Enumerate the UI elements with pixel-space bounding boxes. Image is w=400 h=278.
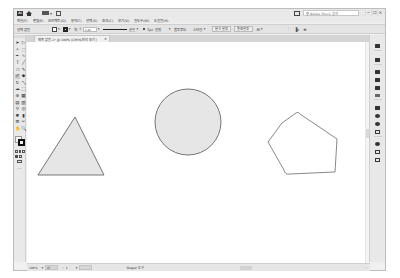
- panel-dock: [369, 35, 385, 262]
- previous-artboard-icon[interactable]: ‹: [62, 266, 63, 270]
- gradient-mode-icon[interactable]: [19, 150, 22, 153]
- perspective-grid-tool-icon[interactable]: ▦: [21, 94, 26, 99]
- screen-mode-icon[interactable]: [17, 160, 22, 163]
- dock-divider: [374, 136, 382, 137]
- artwork: [27, 42, 370, 263]
- artboard-nav-field[interactable]: [79, 265, 92, 270]
- line-tool-icon[interactable]: ╱: [21, 61, 26, 66]
- chevron-down-icon[interactable]: ▾: [169, 27, 171, 31]
- gradient-tool-icon[interactable]: ▥: [21, 100, 26, 105]
- slice-tool-icon[interactable]: ✂: [21, 120, 26, 125]
- brush-definition[interactable]: 5pt. 원형: [147, 27, 161, 32]
- circle-shape[interactable]: [155, 89, 221, 155]
- artboard-tool-icon[interactable]: ⊞: [15, 120, 20, 125]
- warp-tool-icon[interactable]: ☁: [15, 87, 20, 92]
- menu-help[interactable]: 도움말(H): [154, 18, 168, 23]
- document-tab[interactable]: 제목 없음-1* @ 100% (CMYK/미리 보기) ✕: [34, 35, 110, 42]
- menu-object[interactable]: 오브젝트(O): [48, 18, 65, 23]
- artboard-canvas[interactable]: [27, 42, 370, 263]
- current-tool-status[interactable]: Shaper 도구: [126, 266, 144, 270]
- curvature-tool-icon[interactable]: ∿: [21, 54, 26, 59]
- stroke-profile-preview[interactable]: [103, 29, 127, 30]
- properties-panel-icon[interactable]: [375, 44, 380, 48]
- arrange-icon[interactable]: ⊞: [257, 27, 260, 32]
- menu-select[interactable]: 선택(S): [86, 18, 97, 23]
- none-mode-icon[interactable]: [22, 150, 25, 153]
- status-menu-icon[interactable]: ›: [366, 266, 367, 270]
- app-logo: Ai: [17, 11, 23, 16]
- stock-search-input[interactable]: ⚲ Adobe Stock 검색: [303, 10, 359, 16]
- menu-window[interactable]: 윈도우(W): [134, 18, 149, 23]
- blob-brush-tool-icon[interactable]: ◆: [21, 74, 26, 79]
- chevron-down-icon[interactable]: ▾: [58, 27, 60, 31]
- rotation-field[interactable]: 0°: [45, 265, 58, 270]
- zoom-level[interactable]: 100%: [29, 266, 38, 270]
- horizontal-scrollbar[interactable]: [167, 265, 357, 270]
- opacity-label[interactable]: 불투명도:: [174, 27, 187, 32]
- pen-tool-icon[interactable]: ✒: [15, 54, 20, 59]
- transform-icon[interactable]: ▐▸: [294, 27, 299, 32]
- mesh-tool-icon[interactable]: ▤: [15, 100, 20, 105]
- column-graph-tool-icon[interactable]: ▮: [21, 114, 26, 119]
- color-mode-icon[interactable]: [15, 150, 18, 153]
- horizontal-scrollbar-thumb[interactable]: [240, 266, 252, 270]
- draw-normal-icon[interactable]: [15, 155, 18, 158]
- brushes-panel-icon[interactable]: [375, 94, 380, 97]
- symbols-panel-icon[interactable]: [375, 130, 380, 134]
- stroke-weight-input[interactable]: 1 pt: [83, 27, 97, 32]
- chevron-down-icon[interactable]: ▾: [42, 266, 44, 270]
- eyedropper-tool-icon[interactable]: ⚲: [15, 107, 20, 112]
- home-icon[interactable]: [26, 11, 32, 16]
- blend-tool-icon[interactable]: ◎: [21, 107, 26, 112]
- style-label: 스타일:: [193, 27, 203, 32]
- stroke-color-swatch[interactable]: [63, 27, 68, 32]
- chevron-down-icon[interactable]: ▾: [50, 11, 52, 16]
- chevron-down-icon[interactable]: ▾: [204, 27, 206, 31]
- layers-panel-icon[interactable]: [375, 58, 380, 62]
- chevron-down-icon[interactable]: ▾: [261, 27, 263, 31]
- document-setup-button[interactable]: 문서 설정: [212, 26, 231, 32]
- menu-type[interactable]: 문자(T): [71, 18, 82, 23]
- direct-selection-tool-icon[interactable]: ▷: [21, 41, 26, 46]
- chevron-down-icon[interactable]: ▾: [69, 27, 71, 31]
- rotate-tool-icon[interactable]: ↻: [15, 81, 20, 86]
- artboard-number[interactable]: 1: [66, 266, 68, 270]
- arrange-documents-icon[interactable]: [42, 11, 49, 15]
- magic-wand-tool-icon[interactable]: ✧: [15, 48, 20, 53]
- draw-behind-icon[interactable]: [19, 155, 22, 158]
- shape-builder-tool-icon[interactable]: ⊕: [15, 94, 20, 99]
- scale-tool-icon[interactable]: ⤡: [21, 81, 26, 86]
- gpu-performance-icon[interactable]: [56, 11, 61, 16]
- chevron-down-icon[interactable]: ▾: [76, 266, 78, 270]
- close-button[interactable]: ✕: [377, 10, 383, 16]
- type-tool-icon[interactable]: T: [15, 61, 20, 66]
- dock-divider: [374, 50, 382, 51]
- zoom-tool-icon[interactable]: 🔍: [21, 127, 26, 132]
- workspace-switcher-icon[interactable]: [294, 11, 300, 16]
- selection-tool-icon[interactable]: ➤: [15, 41, 20, 46]
- free-transform-tool-icon[interactable]: ⬚: [21, 87, 26, 92]
- edit-toolbar-button[interactable]: ···: [14, 166, 25, 171]
- hand-tool-icon[interactable]: ✋: [15, 127, 20, 132]
- triangle-shape[interactable]: [38, 117, 104, 175]
- shaper-tool-icon[interactable]: ✐: [15, 74, 20, 79]
- chevron-down-icon[interactable]: ▾: [98, 27, 100, 31]
- symbol-sprayer-tool-icon[interactable]: ✺: [15, 114, 20, 119]
- ellipse-tool-icon[interactable]: ⬭: [15, 67, 20, 72]
- panel-menu-icon[interactable]: ≡: [303, 27, 306, 32]
- paintbrush-tool-icon[interactable]: ✎: [21, 67, 26, 72]
- freehand-pentagon-shape[interactable]: [268, 112, 337, 174]
- align-icon[interactable]: ⋮: [287, 27, 291, 31]
- menu-view[interactable]: 보기(V): [118, 18, 129, 23]
- menu-file[interactable]: 파일(F): [17, 18, 28, 23]
- lasso-tool-icon[interactable]: ◌: [21, 48, 26, 53]
- close-icon[interactable]: ✕: [104, 37, 107, 41]
- menu-edit[interactable]: 편집(E): [33, 18, 44, 23]
- chevron-down-icon[interactable]: ▾: [136, 27, 138, 31]
- preferences-button[interactable]: 환경 설정: [234, 26, 253, 32]
- pathfinder-panel-icon[interactable]: [375, 158, 380, 162]
- fill-color-swatch[interactable]: [52, 27, 57, 32]
- stroke-swatch[interactable]: [18, 139, 25, 146]
- stepper-icon[interactable]: ⇕: [79, 27, 82, 31]
- menu-effect[interactable]: 효과(C): [102, 18, 113, 23]
